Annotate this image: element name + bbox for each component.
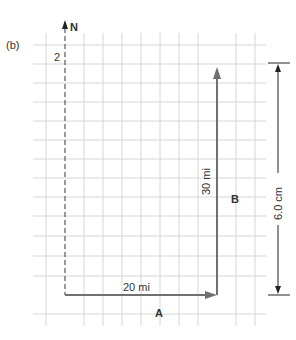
dimension-label: 6.0 cm <box>272 187 284 220</box>
panel-label: (b) <box>6 39 19 51</box>
scale-tick-label: 2 <box>54 51 60 63</box>
north-axis <box>62 20 68 295</box>
vector-diagram: (b) N 2 20 mi A B 30 mi 6.0 cm <box>0 0 296 340</box>
vector-b-arrow <box>213 67 221 295</box>
vector-a-magnitude-label: 20 mi <box>123 281 150 293</box>
north-label: N <box>70 21 78 33</box>
vector-b-magnitude-label: 30 mi <box>200 168 212 195</box>
vector-b-name: B <box>231 193 239 205</box>
north-arrow-icon <box>62 20 68 29</box>
vector-a-name: A <box>155 307 163 319</box>
dimension-line <box>268 63 290 295</box>
